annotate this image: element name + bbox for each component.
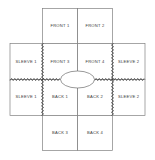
panel-label-sleeve-2-lower: SLEEVE 2 [118, 94, 140, 99]
panel-label-front-4: FRONT 4 [85, 59, 105, 64]
panel-label-back-3: BACK 3 [52, 130, 69, 135]
neck-opening [61, 71, 95, 88]
panel-label-front-3: FRONT 3 [50, 59, 70, 64]
garment-pattern-diagram: FRONT 1FRONT 2SLEEVE 1FRONT 3FRONT 4SLEE… [0, 0, 155, 160]
panel-label-sleeve-1-upper: SLEEVE 1 [16, 59, 38, 64]
panel-label-back-1: BACK 1 [52, 94, 69, 99]
panel-label-back-4: BACK 4 [87, 130, 104, 135]
panel-label-sleeve-1-lower: SLEEVE 1 [16, 94, 38, 99]
panel-label-front-2: FRONT 2 [85, 23, 105, 28]
pattern-layout-svg: FRONT 1FRONT 2SLEEVE 1FRONT 3FRONT 4SLEE… [0, 0, 155, 160]
neck-opening-layer [61, 71, 95, 88]
panel-label-back-2: BACK 2 [87, 94, 104, 99]
panel-label-front-1: FRONT 1 [50, 23, 70, 28]
panel-label-sleeve-2-upper: SLEEVE 2 [118, 59, 140, 64]
